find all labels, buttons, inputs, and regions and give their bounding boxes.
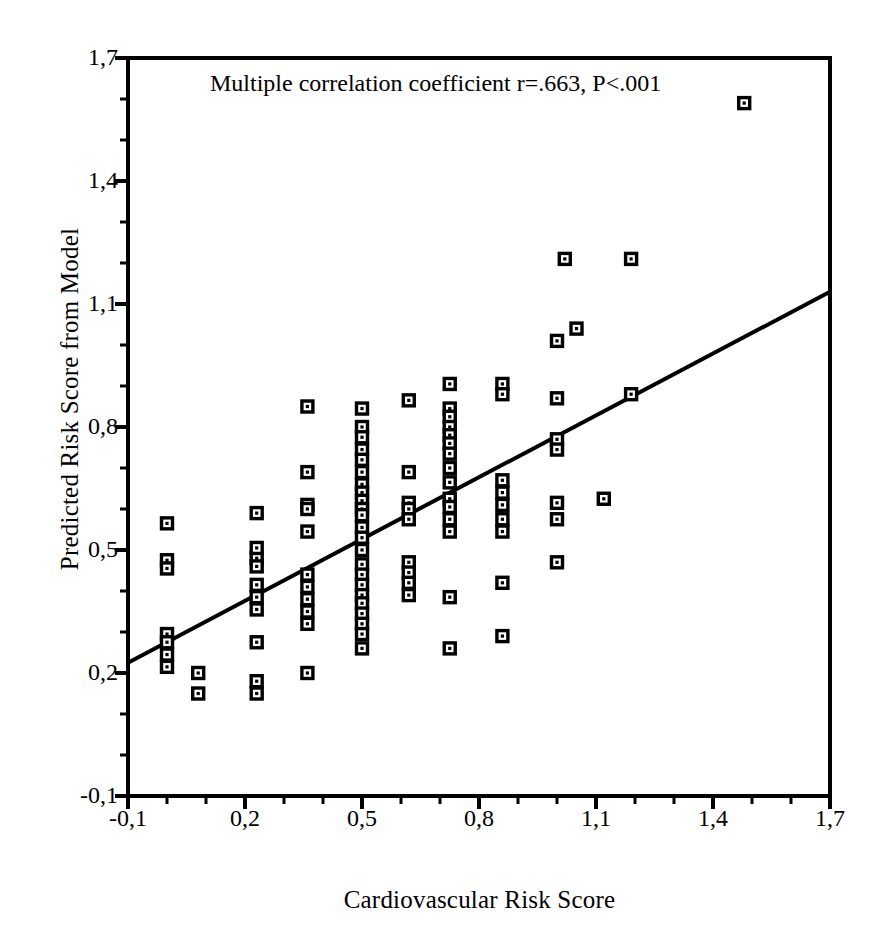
- data-point-center: [555, 339, 558, 342]
- data-point-center: [165, 653, 168, 656]
- data-point-center: [255, 583, 258, 586]
- data-point-center: [165, 665, 168, 668]
- data-point-center: [165, 641, 168, 644]
- data-point-center: [407, 518, 410, 521]
- data-point-center: [555, 438, 558, 441]
- data-point-center: [360, 458, 363, 461]
- data-point-center: [306, 471, 309, 474]
- data-point-center: [501, 503, 504, 506]
- data-point-center: [501, 479, 504, 482]
- data-point-center: [501, 491, 504, 494]
- data-point-center: [407, 507, 410, 510]
- data-point-center: [255, 565, 258, 568]
- data-point-center: [555, 518, 558, 521]
- data-point-center: [555, 561, 558, 564]
- regression-line: [128, 292, 830, 663]
- data-point-center: [448, 530, 451, 533]
- data-point-center: [360, 526, 363, 529]
- data-point-center: [360, 612, 363, 615]
- data-point-center: [360, 632, 363, 635]
- data-point-center: [306, 507, 309, 510]
- data-point-center: [407, 561, 410, 564]
- data-point-center: [407, 581, 410, 584]
- data-point-center: [448, 481, 451, 484]
- data-point-center: [555, 501, 558, 504]
- data-point-center: [407, 571, 410, 574]
- data-point-center: [501, 530, 504, 533]
- data-point-center: [555, 397, 558, 400]
- data-point-center: [306, 405, 309, 408]
- correlation-annotation: Multiple correlation coefficient r=.663,…: [210, 70, 661, 97]
- data-point-center: [360, 407, 363, 410]
- data-point-center: [360, 563, 363, 566]
- data-point-center: [255, 641, 258, 644]
- data-point-center: [197, 692, 200, 695]
- y-axis-title: Predicted Risk Score from Model: [56, 149, 84, 649]
- data-point-center: [306, 671, 309, 674]
- data-point-center: [360, 583, 363, 586]
- regression-line-path: [128, 292, 830, 663]
- data-point-center: [501, 581, 504, 584]
- data-point-center: [306, 610, 309, 613]
- scatter-plot-figure: Predicted Risk Score from Model Cardiova…: [0, 0, 887, 950]
- data-point-center: [448, 442, 451, 445]
- data-point-center: [448, 647, 451, 650]
- data-point-center: [255, 512, 258, 515]
- data-point-center: [448, 518, 451, 521]
- data-point-center: [448, 415, 451, 418]
- data-point-center: [407, 399, 410, 402]
- data-point-center: [448, 382, 451, 385]
- data-point-center: [501, 393, 504, 396]
- axes-frame: [128, 58, 830, 796]
- data-point-center: [360, 647, 363, 650]
- data-point-center: [630, 257, 633, 260]
- data-point-center: [306, 573, 309, 576]
- data-point-center: [501, 518, 504, 521]
- data-point-center: [743, 102, 746, 105]
- data-point-center: [501, 382, 504, 385]
- data-point-center: [360, 548, 363, 551]
- data-point-center: [448, 505, 451, 508]
- data-point-center: [555, 448, 558, 451]
- data-point-center: [448, 596, 451, 599]
- data-point-center: [360, 622, 363, 625]
- data-point-center: [575, 327, 578, 330]
- data-point-center: [255, 608, 258, 611]
- data-point-center: [360, 471, 363, 474]
- data-point-center: [360, 573, 363, 576]
- data-point-center: [407, 471, 410, 474]
- data-point-center: [306, 585, 309, 588]
- data-point-center: [255, 692, 258, 695]
- data-point-center: [360, 425, 363, 428]
- data-point-center: [501, 635, 504, 638]
- data-point-center: [407, 594, 410, 597]
- data-points: [162, 98, 750, 699]
- data-point-center: [306, 530, 309, 533]
- data-point-center: [630, 393, 633, 396]
- data-point-center: [165, 522, 168, 525]
- data-point-center: [255, 680, 258, 683]
- data-point-center: [360, 602, 363, 605]
- data-point-center: [360, 448, 363, 451]
- data-point-center: [306, 622, 309, 625]
- data-point-center: [360, 514, 363, 517]
- data-point-center: [306, 598, 309, 601]
- data-point-center: [255, 546, 258, 549]
- data-point-center: [563, 257, 566, 260]
- data-point-center: [448, 466, 451, 469]
- data-point-center: [448, 452, 451, 455]
- axis-ticks: [115, 58, 830, 809]
- data-point-center: [165, 567, 168, 570]
- data-point-center: [360, 436, 363, 439]
- data-point-center: [197, 671, 200, 674]
- data-point-center: [360, 536, 363, 539]
- data-point-center: [255, 596, 258, 599]
- x-axis-title: Cardiovascular Risk Score: [128, 886, 831, 914]
- data-point-center: [602, 497, 605, 500]
